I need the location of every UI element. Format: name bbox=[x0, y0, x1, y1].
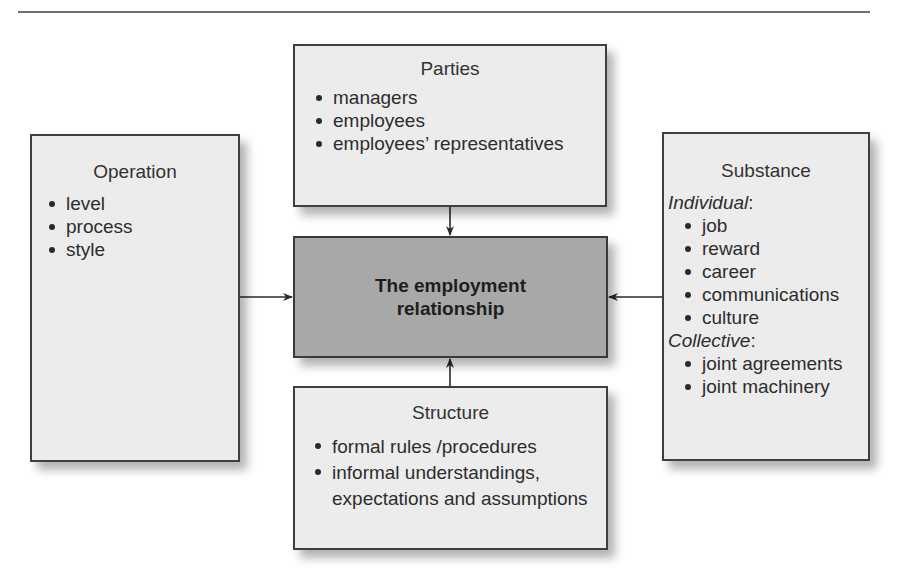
structure-box: Structure formal rules /procedures infor… bbox=[293, 386, 608, 550]
list-item: communications bbox=[668, 283, 868, 306]
parties-list: managers employees employees’ representa… bbox=[313, 86, 605, 155]
list-item: employees’ representatives bbox=[313, 132, 605, 155]
list-item: reward bbox=[668, 237, 868, 260]
list-item: career bbox=[668, 260, 868, 283]
list-item: job bbox=[668, 214, 868, 237]
list-item: managers bbox=[313, 86, 605, 109]
parties-box: Parties managers employees employees’ re… bbox=[293, 44, 607, 207]
substance-box: Substance Individual: job reward career … bbox=[662, 132, 870, 461]
substance-collective-list: joint agreements joint machinery bbox=[668, 352, 868, 398]
parties-title: Parties bbox=[295, 58, 605, 80]
list-item: informal understandings, expectations an… bbox=[312, 460, 592, 512]
operation-list: level process style bbox=[46, 192, 238, 261]
substance-title: Substance bbox=[664, 160, 868, 182]
list-item: culture bbox=[668, 306, 868, 329]
list-item: joint agreements bbox=[668, 352, 868, 375]
substance-subheading-collective: Collective: bbox=[668, 329, 868, 352]
operation-title: Operation bbox=[32, 161, 238, 183]
structure-title: Structure bbox=[295, 402, 606, 424]
list-item: level bbox=[46, 192, 238, 215]
structure-list: formal rules /procedures informal unders… bbox=[312, 434, 592, 512]
top-rule bbox=[18, 11, 870, 13]
list-item: formal rules /procedures bbox=[312, 434, 592, 460]
employment-relationship-box: The employment relationship bbox=[293, 236, 608, 358]
list-item: employees bbox=[313, 109, 605, 132]
substance-individual-list: job reward career communications culture bbox=[668, 214, 868, 329]
substance-subheading-individual: Individual: bbox=[668, 191, 868, 214]
list-item: joint machinery bbox=[668, 375, 868, 398]
list-item: style bbox=[46, 238, 238, 261]
list-item: process bbox=[46, 215, 238, 238]
center-label: The employment relationship bbox=[351, 274, 551, 320]
operation-box: Operation level process style bbox=[30, 134, 240, 462]
